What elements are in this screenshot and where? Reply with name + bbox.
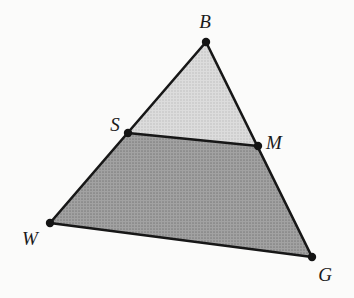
vertex-label-B: B — [199, 12, 211, 31]
vertex-label-G: G — [318, 265, 332, 284]
geometry-figure: B W G S M — [0, 0, 354, 298]
triangle-diagram-svg — [0, 0, 354, 298]
vertex-dot-G — [308, 253, 316, 261]
vertex-label-W: W — [22, 229, 38, 248]
vertex-dot-S — [124, 129, 132, 137]
vertex-label-S: S — [110, 115, 120, 134]
vertex-dot-B — [202, 38, 210, 46]
vertex-dot-W — [46, 219, 54, 227]
vertex-dot-M — [254, 142, 262, 150]
vertex-label-M: M — [266, 133, 282, 152]
